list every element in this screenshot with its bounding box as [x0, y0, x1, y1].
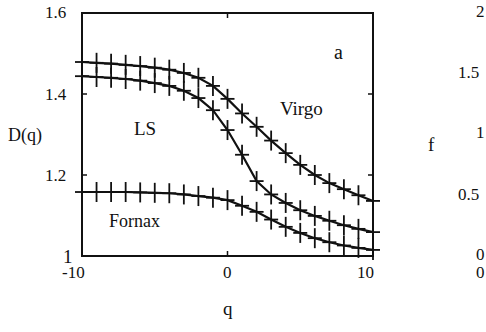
- plot-area: [0, 0, 486, 332]
- right-panel-y-tick-0.5: 0.5: [458, 186, 479, 203]
- x-tick-0: 0: [223, 264, 232, 281]
- x-tick-neg10: -10: [62, 264, 85, 281]
- y-tick-1.6: 1.6: [45, 4, 66, 21]
- right-panel-y-label: f: [428, 135, 434, 154]
- right-panel-y-tick-1: 1: [476, 124, 485, 141]
- series-label-virgo: Virgo: [280, 99, 323, 118]
- x-tick-10: 10: [357, 264, 374, 281]
- right-panel-y-tick-2: 2: [476, 3, 485, 20]
- y-tick-1.4: 1.4: [45, 86, 66, 103]
- y-axis-label: D(q): [8, 126, 42, 144]
- panel-label: a: [334, 42, 343, 62]
- right-panel-y-tick-0: 0: [476, 246, 485, 263]
- x-axis-label: q: [223, 299, 233, 318]
- series-label-ls: LS: [134, 119, 156, 138]
- right-panel-y-tick-1.5: 1.5: [458, 64, 479, 81]
- series-label-fornax: Fornax: [109, 212, 160, 230]
- right-panel-x-tick-0: 0: [476, 264, 485, 281]
- y-tick-1.2: 1.2: [45, 167, 66, 184]
